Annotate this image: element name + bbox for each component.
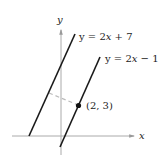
graph-figure: x y y = 2x + 7 y = 2x − 1 (2, 3) (0, 0, 158, 164)
line-y-2x-minus-1-label: y = 2x − 1 (104, 53, 158, 64)
perpendicular-dashed-line (49, 93, 78, 105)
y-axis-label: y (56, 14, 63, 25)
line-y-2x-plus-7-label: y = 2x + 7 (78, 31, 133, 42)
point-2-3-label: (2, 3) (86, 100, 113, 111)
point-2-3 (76, 103, 81, 108)
x-axis-label: x (139, 130, 145, 141)
line-y-2x-plus-7 (29, 34, 75, 136)
